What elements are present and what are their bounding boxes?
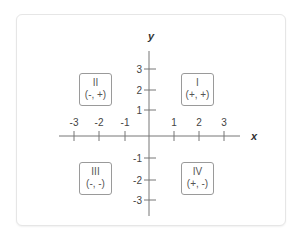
- x-tick-label: -1: [121, 117, 130, 128]
- quadrant-numeral: II: [80, 77, 111, 89]
- quadrant-signs: (+, +): [182, 89, 213, 101]
- x-tick-label: 2: [196, 117, 202, 128]
- quadrant-signs: (-, +): [80, 89, 111, 101]
- y-axis-label: y: [147, 30, 155, 42]
- quadrant-II-box: II (-, +): [79, 73, 112, 106]
- quadrant-IV-box: IV (+, -): [181, 162, 214, 195]
- quadrant-signs: (+, -): [182, 178, 213, 190]
- y-tick-label: -3: [133, 195, 142, 206]
- y-ticks: [144, 69, 156, 200]
- y-tick-label: 2: [136, 85, 142, 96]
- coordinate-plane: -3 -2 -1 1 2 3 3 2 1 -1 -2 -3 y x: [0, 0, 299, 246]
- x-tick-label: 3: [221, 117, 227, 128]
- quadrant-I-box: I (+, +): [181, 73, 214, 106]
- y-tick-label: 1: [136, 105, 142, 116]
- quadrant-III-box: III (-, -): [79, 162, 112, 195]
- x-axis-label: x: [250, 130, 258, 142]
- x-tick-label: -2: [95, 117, 104, 128]
- quadrant-numeral: III: [80, 166, 111, 178]
- x-tick-label: -3: [70, 117, 79, 128]
- quadrant-numeral: IV: [182, 166, 213, 178]
- y-tick-label: 3: [136, 64, 142, 75]
- quadrant-signs: (-, -): [80, 178, 111, 190]
- y-tick-label: -1: [133, 153, 142, 164]
- y-tick-label: -2: [133, 175, 142, 186]
- quadrant-numeral: I: [182, 77, 213, 89]
- x-tick-label: 1: [171, 117, 177, 128]
